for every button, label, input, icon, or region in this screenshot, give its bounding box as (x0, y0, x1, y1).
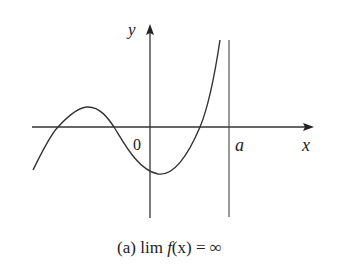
figure: y 0 a x (a) lim f(x) = ∞ (0, 0, 339, 269)
y-axis-label: y (126, 20, 136, 39)
caption-prefix: (a) lim (117, 238, 167, 257)
x-axis-label: x (301, 135, 310, 155)
origin-label: 0 (133, 136, 141, 153)
graph: y 0 a x (0, 0, 339, 269)
caption-rest: = ∞ (192, 238, 222, 257)
caption-arg: (x) (172, 238, 192, 257)
caption: (a) lim f(x) = ∞ (0, 238, 339, 258)
asymptote-label: a (235, 135, 244, 155)
function-curve (33, 40, 220, 174)
